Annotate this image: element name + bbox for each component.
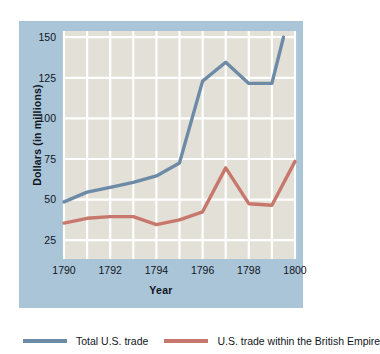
x-tick-1792: 1792 (87, 264, 133, 276)
x-tick-1798: 1798 (226, 264, 272, 276)
line-swatch-red-icon (164, 339, 208, 343)
chart-frame: 150 125 100 75 50 25 Dollars (in million… (19, 21, 303, 308)
legend-label-total-us-trade: Total U.S. trade (76, 335, 148, 347)
x-tick-1796: 1796 (180, 264, 226, 276)
x-axis-title: Year (19, 284, 303, 296)
legend-label-british-empire-trade: U.S. trade within the British Empire (217, 335, 380, 347)
line-swatch-blue-icon (23, 339, 67, 343)
x-tick-1790: 1790 (41, 264, 87, 276)
x-tick-1800: 1800 (272, 264, 318, 276)
legend-item-total-us-trade: Total U.S. trade (23, 335, 148, 347)
x-tick-1794: 1794 (133, 264, 179, 276)
legend-item-british-empire-trade: U.S. trade within the British Empire (164, 335, 380, 347)
chart-legend: Total U.S. trade U.S. trade within the B… (0, 330, 322, 352)
